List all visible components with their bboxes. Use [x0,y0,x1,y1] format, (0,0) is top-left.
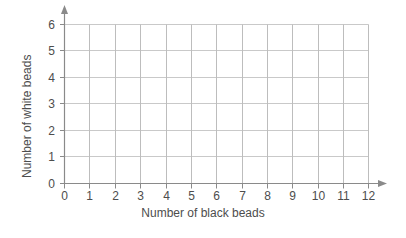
y-axis-title: Number of white beads [20,55,34,178]
y-tick-label-1: 1 [39,151,55,163]
x-tick-label-8: 8 [256,190,280,202]
x-tick-label-1: 1 [78,190,102,202]
y-tick-label-3: 3 [39,98,55,110]
x-tick-label-5: 5 [180,190,204,202]
x-tick-label-2: 2 [104,190,128,202]
y-tick-label-5: 5 [39,45,55,57]
x-tick-label-0: 0 [53,190,77,202]
x-axis-arrow-icon [378,180,387,187]
y-axis-arrow-icon [61,5,68,14]
x-tick-label-7: 7 [231,190,255,202]
x-tick-label-4: 4 [155,190,179,202]
y-tick-label-0: 0 [39,178,55,190]
y-tick-label-2: 2 [39,125,55,137]
x-tick-label-9: 9 [281,190,305,202]
bead-grid-chart: 0 1 2 3 4 5 6 7 8 9 10 11 12 0 1 2 3 4 5… [0,0,406,238]
x-tick-label-6: 6 [205,190,229,202]
x-tick-label-11: 11 [332,190,356,202]
x-axis-title: Number of black beads [0,206,406,220]
x-axis-ticks [65,184,369,189]
y-tick-label-6: 6 [39,19,55,31]
x-tick-label-12: 12 [357,190,381,202]
x-tick-label-3: 3 [129,190,153,202]
y-tick-label-4: 4 [39,72,55,84]
x-tick-label-10: 10 [307,190,331,202]
